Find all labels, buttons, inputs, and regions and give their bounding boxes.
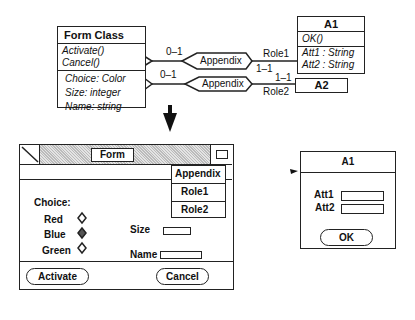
- size-label: Size: [130, 224, 150, 236]
- mult-1-1-a: 1–1: [256, 63, 273, 75]
- radio-diamonds: [20, 145, 235, 263]
- appendix-label-1: Appendix: [200, 55, 242, 67]
- name-label: Name: [130, 249, 157, 261]
- a2-class-box: A2: [295, 78, 348, 93]
- form-class-box: Form Class Activate() Cancel() Choice: C…: [57, 26, 146, 108]
- pointer-icon: [290, 169, 298, 174]
- att1-input[interactable]: [341, 191, 384, 201]
- a1-window: A1 Att1 Att2 OK: [300, 151, 396, 249]
- mult-0-1-a: 0–1: [166, 46, 183, 58]
- radio-red[interactable]: [77, 212, 88, 224]
- a1-window-title: A1: [301, 152, 395, 173]
- radio-blue[interactable]: [77, 227, 88, 239]
- a1-class-box: A1 OK() Att1 : String Att2 : String: [297, 16, 365, 74]
- cancel-button[interactable]: Cancel: [156, 268, 209, 285]
- att1-label: Att1: [314, 189, 333, 201]
- role1-label: Role1: [263, 48, 289, 60]
- appendix-label-2: Appendix: [202, 78, 244, 90]
- radio-green[interactable]: [77, 242, 88, 254]
- form-class-attributes: Choice: Color Size: integer Name: string: [58, 71, 145, 115]
- size-input[interactable]: [163, 227, 191, 235]
- mult-0-1-b: 0–1: [160, 69, 177, 81]
- form-class-title: Form Class: [58, 27, 145, 44]
- mult-1-1-b: 1–1: [275, 72, 292, 84]
- activate-button[interactable]: Activate: [26, 268, 89, 285]
- form-button-bar: Activate Cancel: [19, 261, 234, 290]
- a1-class-methods: OK(): [298, 32, 364, 47]
- a1-class-attributes: Att1 : String Att2 : String: [298, 47, 364, 71]
- att2-input[interactable]: [341, 204, 384, 214]
- name-input[interactable]: [160, 251, 202, 259]
- role2-label: Role2: [263, 86, 289, 98]
- att2-label: Att2: [315, 202, 334, 214]
- form-class-methods: Activate() Cancel(): [58, 44, 145, 71]
- form-window: Form Appendix Role1 Role2 Choice: Red Bl…: [19, 144, 234, 262]
- down-arrow-icon: [163, 113, 177, 132]
- ok-button[interactable]: OK: [320, 229, 373, 246]
- a1-class-title: A1: [298, 17, 364, 32]
